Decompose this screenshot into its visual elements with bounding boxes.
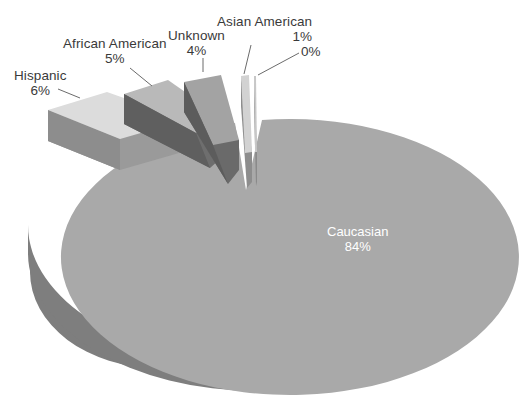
- slice-label-caucasian-name: Caucasian: [327, 224, 388, 239]
- slice-label-african-american-value: 5%: [63, 51, 167, 66]
- slice-label-asian-american-name: Asian American: [217, 14, 312, 29]
- slice-label-african-american: African American 5%: [63, 36, 167, 66]
- slice-label-caucasian: Caucasian 84%: [327, 224, 388, 254]
- slice-label-hispanic: Hispanic 6%: [14, 68, 67, 98]
- leader-line-zero: [258, 53, 299, 75]
- slice-label-unknown-value: 4%: [168, 43, 225, 58]
- leader-line-asian-american: [244, 45, 251, 74]
- slice-label-zero-value: 0%: [301, 44, 321, 59]
- slice-label-african-american-name: African American: [63, 36, 167, 51]
- pie-chart-figure: Hispanic 6% African American 5% Unknown …: [0, 0, 521, 400]
- slice-label-caucasian-value: 84%: [327, 239, 388, 254]
- leader-line-african-american: [130, 68, 152, 86]
- slice-label-asian-american: Asian American 1%: [217, 14, 312, 44]
- slice-label-hispanic-name: Hispanic: [14, 68, 67, 83]
- slice-label-asian-american-value: 1%: [217, 29, 312, 44]
- slice-label-hispanic-value: 6%: [14, 83, 67, 98]
